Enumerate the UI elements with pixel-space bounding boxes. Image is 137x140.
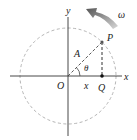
y-axis-label: y (65, 5, 71, 16)
angle-label: θ (84, 63, 89, 73)
amplitude-label: A (73, 48, 81, 59)
x-displacement-label: x (83, 80, 89, 91)
reference-circle-diagram: y x O P Q A θ x ω (0, 0, 137, 140)
point-q (100, 74, 104, 78)
point-p (100, 40, 103, 43)
angular-velocity-label: ω (118, 9, 125, 20)
origin-label: O (57, 80, 64, 91)
point-p-label: P (106, 32, 113, 43)
angle-arc (77, 68, 81, 77)
point-q-label: Q (98, 82, 106, 93)
rotation-arrow-icon (86, 8, 118, 29)
x-axis-label: x (123, 71, 129, 82)
